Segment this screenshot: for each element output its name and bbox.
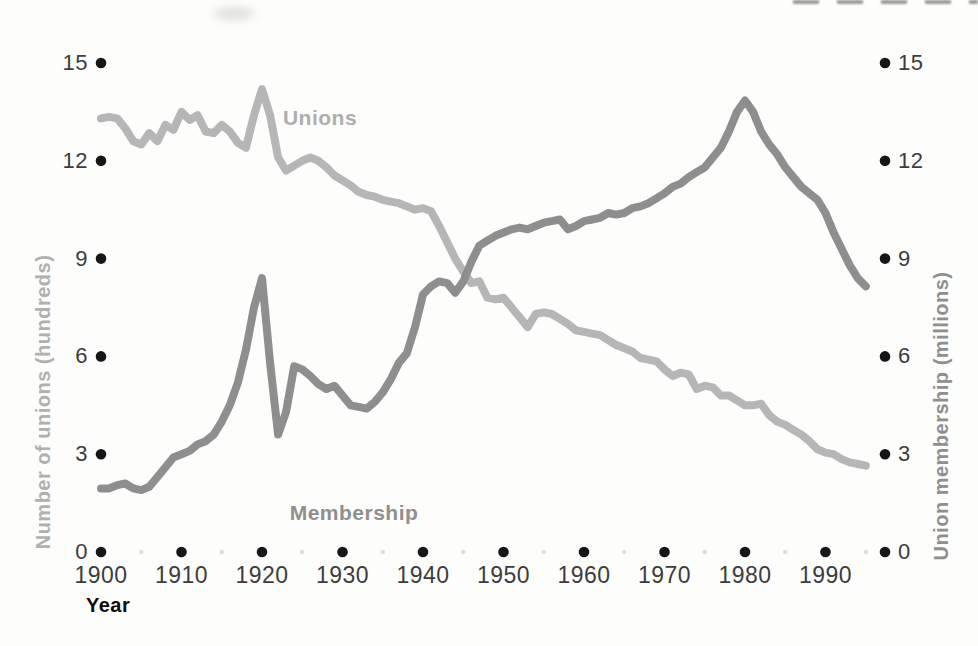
tick-label: 15 xyxy=(0,50,88,76)
tick-label: 3 xyxy=(898,441,911,467)
x-tick-dot xyxy=(740,547,751,558)
unions-series-label: Unions xyxy=(283,106,357,130)
left-axis-title: Number of unions (hundreds) xyxy=(32,252,60,552)
membership-series-label: Membership xyxy=(290,501,419,525)
right-y-tick-dot xyxy=(880,156,891,167)
chart-plot-area xyxy=(0,0,978,646)
x-tick-dot xyxy=(820,547,831,558)
x-tick-dot xyxy=(659,547,670,558)
x-tick-dot xyxy=(498,547,509,558)
x-minor-tick-dot xyxy=(139,550,144,555)
scan-artifact xyxy=(793,0,978,4)
x-minor-tick-dot xyxy=(783,550,788,555)
x-minor-tick-dot xyxy=(219,550,224,555)
x-minor-tick-dot xyxy=(863,550,868,555)
x-tick-dot xyxy=(418,547,429,558)
left-y-tick-dot xyxy=(96,351,107,362)
x-tick-dot xyxy=(337,547,348,558)
right-y-tick-dot xyxy=(880,351,891,362)
x-minor-tick-dot xyxy=(702,550,707,555)
scan-smudge xyxy=(213,7,255,20)
x-minor-tick-dot xyxy=(541,550,546,555)
tick-label: 12 xyxy=(898,148,923,174)
x-tick-dot xyxy=(579,547,590,558)
x-minor-tick-dot xyxy=(380,550,385,555)
x-minor-tick-dot xyxy=(461,550,466,555)
unions-line xyxy=(101,89,866,466)
x-tick-dot xyxy=(176,547,187,558)
right-axis-title: Union membership (millions) xyxy=(930,266,958,566)
right-y-tick-dot xyxy=(880,58,891,69)
x-axis-title: Year xyxy=(86,594,130,617)
left-y-tick-dot xyxy=(96,253,107,264)
left-y-tick-dot xyxy=(96,156,107,167)
right-y-tick-dot xyxy=(880,547,891,558)
right-y-tick-dot xyxy=(880,449,891,460)
tick-label: 9 xyxy=(898,246,911,272)
left-y-tick-dot xyxy=(96,449,107,460)
tick-label: 1990 xyxy=(778,562,874,588)
tick-label: 6 xyxy=(898,343,911,369)
left-y-tick-dot xyxy=(96,547,107,558)
line-chart: 03691215 03691215 1900191019201930194019… xyxy=(0,0,978,646)
right-y-tick-dot xyxy=(880,253,891,264)
x-minor-tick-dot xyxy=(300,550,305,555)
left-y-tick-dot xyxy=(96,58,107,69)
tick-label: 15 xyxy=(898,50,923,76)
tick-label: 0 xyxy=(898,539,911,565)
x-minor-tick-dot xyxy=(622,550,627,555)
tick-label: 12 xyxy=(0,148,88,174)
x-tick-dot xyxy=(257,547,268,558)
